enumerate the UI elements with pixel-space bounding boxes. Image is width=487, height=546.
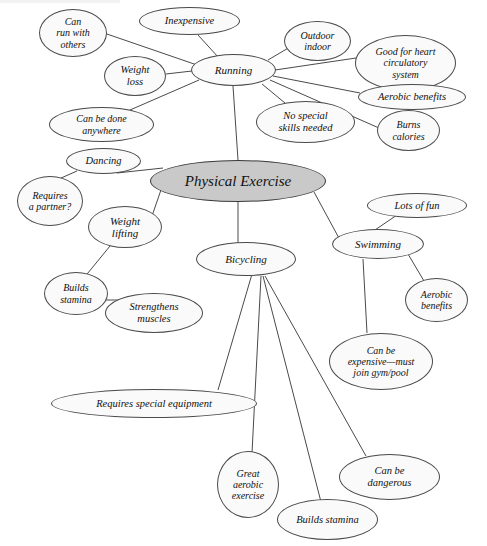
node-can-be-expensive[interactable]: Can be expensive—must join gym/pool — [329, 333, 433, 390]
edge-center-to-running — [233, 86, 238, 160]
node-label-burns-calories: Burns calories — [392, 119, 424, 141]
node-lots-of-fun[interactable]: Lots of fun — [367, 193, 467, 218]
edge-running-to-aerobic-benefits-run — [273, 76, 360, 93]
node-weight-loss[interactable]: Weight loss — [104, 56, 166, 96]
page-top-artifact — [0, 0, 120, 3]
node-label-bicycling: Bicycling — [225, 253, 267, 265]
node-label-can-run-with-others: Can run with others — [56, 16, 90, 50]
node-swimming[interactable]: Swimming — [332, 229, 424, 259]
node-good-for-heart[interactable]: Good for heart circulatory system — [355, 35, 456, 91]
node-running[interactable]: Running — [191, 54, 276, 86]
node-label-outdoor-indoor: Outdoor indoor — [301, 30, 335, 52]
edge-bicycling-to-requires-equipment — [218, 274, 252, 390]
edge-center-to-swimming — [314, 192, 340, 240]
node-label-aerobic-benefits-run: Aerobic benefits — [378, 91, 446, 103]
node-label-great-aerobic: Great aerobic exercise — [232, 468, 264, 502]
node-label-can-be-dangerous: Can be dangerous — [368, 465, 412, 489]
node-aerobic-benefits-run[interactable]: Aerobic benefits — [358, 84, 466, 110]
node-great-aerobic[interactable]: Great aerobic exercise — [217, 451, 279, 518]
node-can-run-with-others[interactable]: Can run with others — [39, 9, 107, 57]
node-strengthens-muscles[interactable]: Strengthens muscles — [105, 293, 203, 333]
node-label-builds-stamina-bike: Builds stamina — [296, 514, 359, 526]
edge-bicycling-to-great-aerobic — [252, 276, 261, 453]
node-burns-calories[interactable]: Burns calories — [377, 110, 440, 151]
node-label-weight-lifting: Weight lifting — [110, 215, 140, 240]
node-label-dancing: Dancing — [85, 155, 121, 167]
node-label-requires-equipment: Requires special equipment — [96, 398, 212, 410]
node-dancing[interactable]: Dancing — [66, 148, 141, 174]
node-label-good-for-heart: Good for heart circulatory system — [376, 46, 436, 80]
edge-running-to-weight-loss — [166, 71, 192, 74]
edge-swimming-to-can-be-expensive — [363, 259, 367, 333]
mind-map-canvas: Physical ExerciseRunningDancingWeight li… — [0, 0, 487, 546]
node-aerobic-benefits-sw[interactable]: Aerobic benefits — [405, 278, 468, 322]
node-label-aerobic-benefits-sw: Aerobic benefits — [421, 289, 452, 311]
node-outdoor-indoor[interactable]: Outdoor indoor — [284, 21, 351, 61]
edge-running-to-no-special-skills — [262, 84, 285, 103]
node-can-be-done-anywhere[interactable]: Can be done anywhere — [49, 107, 154, 142]
node-label-lots-of-fun: Lots of fun — [395, 200, 440, 212]
node-can-be-dangerous[interactable]: Can be dangerous — [339, 454, 440, 500]
node-requires-partner[interactable]: Requires a partner? — [17, 176, 83, 226]
node-label-builds-stamina-wl: Builds stamina — [60, 282, 92, 304]
node-builds-stamina-bike[interactable]: Builds stamina — [277, 499, 378, 540]
node-label-can-be-done-anywhere: Can be done anywhere — [76, 113, 127, 135]
node-builds-stamina-wl[interactable]: Builds stamina — [44, 272, 108, 315]
node-center[interactable]: Physical Exercise — [150, 160, 326, 202]
node-label-swimming: Swimming — [355, 238, 401, 250]
node-label-running: Running — [215, 64, 252, 76]
node-requires-equipment[interactable]: Requires special equipment — [51, 389, 257, 418]
node-label-requires-partner: Requires a partner? — [29, 190, 72, 212]
edge-swimming-to-aerobic-benefits-sw — [408, 254, 424, 281]
node-label-no-special-skills: No special skills needed — [279, 110, 333, 134]
node-label-inexpensive: Inexpensive — [165, 15, 215, 27]
node-no-special-skills[interactable]: No special skills needed — [256, 101, 355, 143]
node-inexpensive[interactable]: Inexpensive — [139, 7, 240, 35]
node-label-strengthens-muscles: Strengthens muscles — [129, 301, 178, 325]
node-weight-lifting[interactable]: Weight lifting — [88, 206, 162, 248]
node-label-can-be-expensive: Can be expensive—must join gym/pool — [348, 345, 415, 379]
node-bicycling[interactable]: Bicycling — [196, 242, 296, 276]
node-label-center: Physical Exercise — [185, 173, 291, 190]
node-label-weight-loss: Weight loss — [121, 64, 150, 88]
